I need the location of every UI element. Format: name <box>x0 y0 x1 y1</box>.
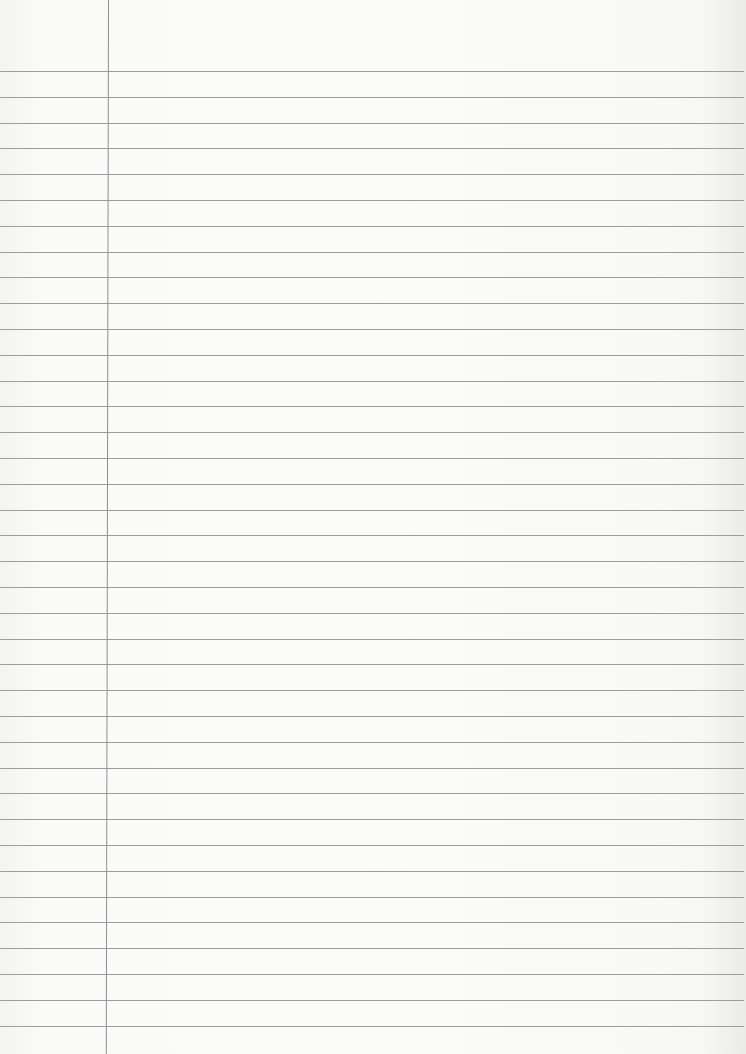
ruled-line <box>0 793 744 794</box>
lined-paper-sheet <box>0 0 746 1054</box>
ruled-line <box>0 432 744 433</box>
ruled-line <box>0 819 744 820</box>
ruled-line <box>0 587 744 588</box>
ruled-line <box>0 303 744 304</box>
ruled-line <box>0 355 744 356</box>
ruled-line <box>0 922 744 923</box>
ruled-line <box>0 1026 744 1027</box>
margin-line <box>106 0 109 1054</box>
ruled-line <box>0 381 744 382</box>
ruled-line <box>0 974 744 975</box>
ruled-line <box>0 71 744 72</box>
ruled-line <box>0 226 744 227</box>
ruled-line <box>0 742 744 743</box>
ruled-line <box>0 458 744 459</box>
ruled-line <box>0 535 744 536</box>
ruled-line <box>0 639 744 640</box>
ruled-line <box>0 148 744 149</box>
ruled-line <box>0 97 744 98</box>
ruled-line <box>0 871 744 872</box>
ruled-line <box>0 664 744 665</box>
ruled-line <box>0 174 744 175</box>
ruled-line <box>0 561 744 562</box>
ruled-line <box>0 948 744 949</box>
ruled-line <box>0 484 744 485</box>
ruled-line <box>0 845 744 846</box>
ruled-line <box>0 406 744 407</box>
ruled-line <box>0 329 744 330</box>
ruled-line <box>0 1000 744 1001</box>
ruled-line <box>0 510 744 511</box>
ruled-line <box>0 277 744 278</box>
ruled-line <box>0 768 744 769</box>
ruled-line <box>0 252 744 253</box>
ruled-line <box>0 200 744 201</box>
ruled-line <box>0 897 744 898</box>
ruled-line <box>0 613 744 614</box>
ruled-line <box>0 716 744 717</box>
ruled-line <box>0 690 744 691</box>
ruled-line <box>0 123 744 124</box>
header-blank-area <box>0 0 746 70</box>
